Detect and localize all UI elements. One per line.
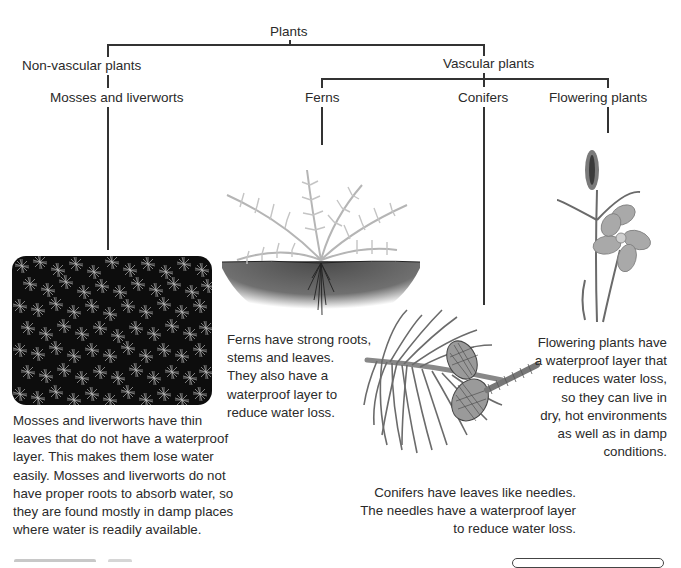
connector-mosses-to-photo	[107, 107, 109, 250]
connector-conifers-to-image	[483, 107, 485, 305]
fern-fronds	[227, 170, 407, 260]
connector-root-horizontal	[107, 44, 484, 46]
tree-nonvascular-label: Non-vascular plants	[22, 58, 141, 74]
conifers-description-line: Conifers have leaves like needles.	[330, 484, 576, 502]
mosses-description-line: they are found mostly in damp places	[13, 503, 248, 521]
flower-illustration	[555, 140, 665, 325]
moss-photo	[12, 256, 212, 405]
tree-flowering-label: Flowering plants	[549, 90, 647, 106]
tree-mosses-label: Mosses and liverworts	[50, 90, 184, 106]
tree-vascular-label: Vascular plants	[443, 56, 534, 72]
conifer-branch-illustration	[362, 305, 542, 455]
mosses-description: Mosses and liverworts have thin leaves t…	[13, 412, 248, 539]
flowering-description-line: reduces water loss,	[520, 370, 667, 388]
flowering-description-line: conditions.	[520, 443, 667, 461]
mosses-description-line: where water is readily available.	[13, 521, 248, 539]
flowering-description-line: a waterproof layer that	[520, 352, 667, 370]
bottom-edge-bar-left-small	[108, 559, 132, 562]
connector-flowering-drop	[607, 78, 609, 88]
mosses-description-line: have proper roots to absorb water, so	[13, 485, 248, 503]
connector-vascular-drop	[483, 44, 485, 56]
ferns-description-line: stems and leaves.	[227, 349, 387, 367]
flower-petals	[592, 201, 654, 274]
connector-vascular-stem	[483, 73, 485, 87]
tree-ferns-label: Ferns	[305, 90, 340, 106]
flowering-description-line: Flowering plants have	[520, 334, 667, 352]
mosses-description-line: Mosses and liverworts have thin	[13, 412, 248, 430]
flowering-description-line: as well as in damp	[520, 425, 667, 443]
connector-nonvascular-to-mosses	[107, 75, 109, 88]
mosses-description-line: easily. Mosses and liverworts do not	[13, 467, 248, 485]
tree-root-label: Plants	[270, 24, 308, 40]
conifers-description: Conifers have leaves like needles. The n…	[330, 484, 576, 539]
mosses-description-line: layer. This makes them lose water	[13, 448, 248, 466]
ferns-description-line: reduce water loss.	[227, 404, 387, 422]
mosses-description-line: leaves that do not have a waterproof	[13, 430, 248, 448]
bottom-edge-box-right	[512, 558, 664, 568]
conifers-description-line: to reduce water loss.	[330, 520, 576, 538]
connector-nonvascular-drop	[107, 44, 109, 57]
ferns-description-line: waterproof layer to	[227, 386, 387, 404]
tree-conifers-label: Conifers	[458, 90, 508, 106]
conifers-description-line: The needles have a waterproof layer	[330, 502, 576, 520]
connector-root-stem	[289, 40, 291, 45]
connector-flowering-to-image	[607, 107, 609, 133]
ferns-description-line: They also have a	[227, 367, 387, 385]
flowering-description-line: so they can live in	[520, 389, 667, 407]
ferns-description: Ferns have strong roots, stems and leave…	[227, 331, 387, 422]
flowering-description: Flowering plants have a waterproof layer…	[520, 334, 667, 461]
moss-texture	[12, 256, 212, 405]
connector-ferns-drop	[321, 78, 323, 88]
fern-illustration	[222, 150, 420, 325]
ferns-description-line: Ferns have strong roots,	[227, 331, 387, 349]
connector-vascular-horizontal	[321, 78, 608, 80]
bottom-edge-bar-left	[14, 559, 96, 562]
connector-ferns-to-image	[321, 107, 323, 145]
flowering-description-line: dry, hot environments	[520, 407, 667, 425]
